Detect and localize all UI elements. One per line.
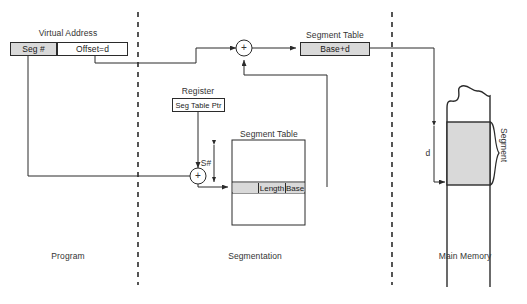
memory-segment-label: Segment (499, 128, 509, 162)
virtual-address-label: Virtual Address (39, 28, 98, 38)
top-adder-plus-symbol: + (241, 42, 247, 53)
segment-entry-index-cell (233, 183, 259, 193)
register-label: Register (182, 86, 214, 96)
segment-brace (490, 122, 499, 185)
lower-adder-plus-symbol: + (195, 170, 201, 181)
zone-label-program: Program (51, 251, 84, 261)
seg-number-field[interactable]: Seg # (10, 42, 57, 56)
segment-table-label: Segment Table (240, 129, 298, 139)
segment-table-entry-row[interactable]: Length Base (233, 183, 304, 193)
s-number-label: S# (201, 158, 212, 168)
zone-label-segmentation: Segmentation (228, 251, 282, 261)
seg-table-ptr-register[interactable]: Seg Table Ptr (172, 98, 225, 112)
memory-top-break (447, 86, 490, 108)
connector-segnum-to-adder (28, 56, 197, 176)
connector-adder-to-segment-entry (198, 184, 228, 187)
offset-d-measure-arrow (434, 126, 445, 182)
segmentation-diagram: Virtual Address Seg # Offset=d + Segment… (0, 0, 527, 304)
segment-entry-length-cell: Length (259, 183, 286, 193)
connector-baseplusd-to-memory (370, 48, 434, 122)
memory-offset-d-label: d (426, 148, 431, 158)
zone-label-main-memory: Main Memory (439, 251, 492, 261)
segment-entry-base-cell: Base (286, 183, 304, 193)
offset-field[interactable]: Offset=d (57, 42, 128, 56)
memory-segment-block (447, 122, 490, 185)
base-plus-d-box[interactable]: Base+d (300, 42, 370, 56)
result-segment-table-label: Segment Table (306, 30, 364, 40)
